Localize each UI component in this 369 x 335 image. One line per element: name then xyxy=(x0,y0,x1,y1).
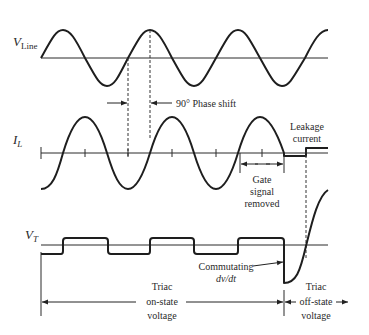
i-l-trace: IL xyxy=(12,117,328,189)
svg-text:off-state: off-state xyxy=(299,296,333,307)
off-state-annotation: Triac off-state voltage xyxy=(285,281,348,321)
v-t-waveform xyxy=(41,190,328,283)
svg-text:removed: removed xyxy=(245,198,280,209)
leakage-current-annotation: Leakage current xyxy=(290,121,324,144)
commutating-dvdt-annotation: Commutating dv/dt xyxy=(199,261,284,284)
on-state-annotation: Triac on-state voltage xyxy=(42,281,283,321)
v-line-trace: VLine xyxy=(13,30,328,86)
i-l-label: IL xyxy=(12,132,22,149)
svg-text:Commutating: Commutating xyxy=(199,261,254,272)
phase-shift-label: 90° Phase shift xyxy=(176,98,236,109)
triac-timing-diagram: VLine 90° Phase shift IL Leakage current xyxy=(0,0,369,335)
phase-shift-annotation: 90° Phase shift xyxy=(107,98,236,109)
v-line-label: VLine xyxy=(13,34,37,51)
svg-text:current: current xyxy=(293,133,322,144)
v-t-trace: VT xyxy=(25,190,328,283)
svg-text:voltage: voltage xyxy=(147,310,177,321)
svg-text:on-state: on-state xyxy=(146,296,178,307)
svg-text:dv/dt: dv/dt xyxy=(216,273,236,284)
svg-text:Gate: Gate xyxy=(253,174,272,185)
svg-text:signal: signal xyxy=(250,186,274,197)
svg-text:voltage: voltage xyxy=(301,310,331,321)
commutating-arrow xyxy=(253,262,283,266)
svg-text:Triac: Triac xyxy=(306,281,327,292)
gate-removed-annotation: Gate signal removed xyxy=(240,153,284,209)
svg-text:Triac: Triac xyxy=(152,281,173,292)
svg-text:Leakage: Leakage xyxy=(290,121,324,132)
v-t-label: VT xyxy=(25,227,39,244)
